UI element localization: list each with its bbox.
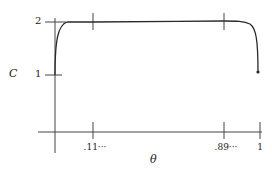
x-tick-label-089: .89···: [215, 143, 238, 152]
y-axis-label: C: [9, 68, 17, 79]
data-curve: [55, 21, 258, 75]
y-tick-label-1: 1: [35, 69, 41, 79]
endpoint-dot: [256, 70, 259, 73]
x-axis-label: θ: [150, 154, 157, 165]
y-tick-label-2: 2: [35, 16, 41, 26]
x-tick-label-1: 1: [257, 143, 263, 152]
x-tick-label-011: .11···: [84, 143, 107, 152]
chart: 2 1 C .11··· .89··· 1 θ: [0, 0, 272, 169]
